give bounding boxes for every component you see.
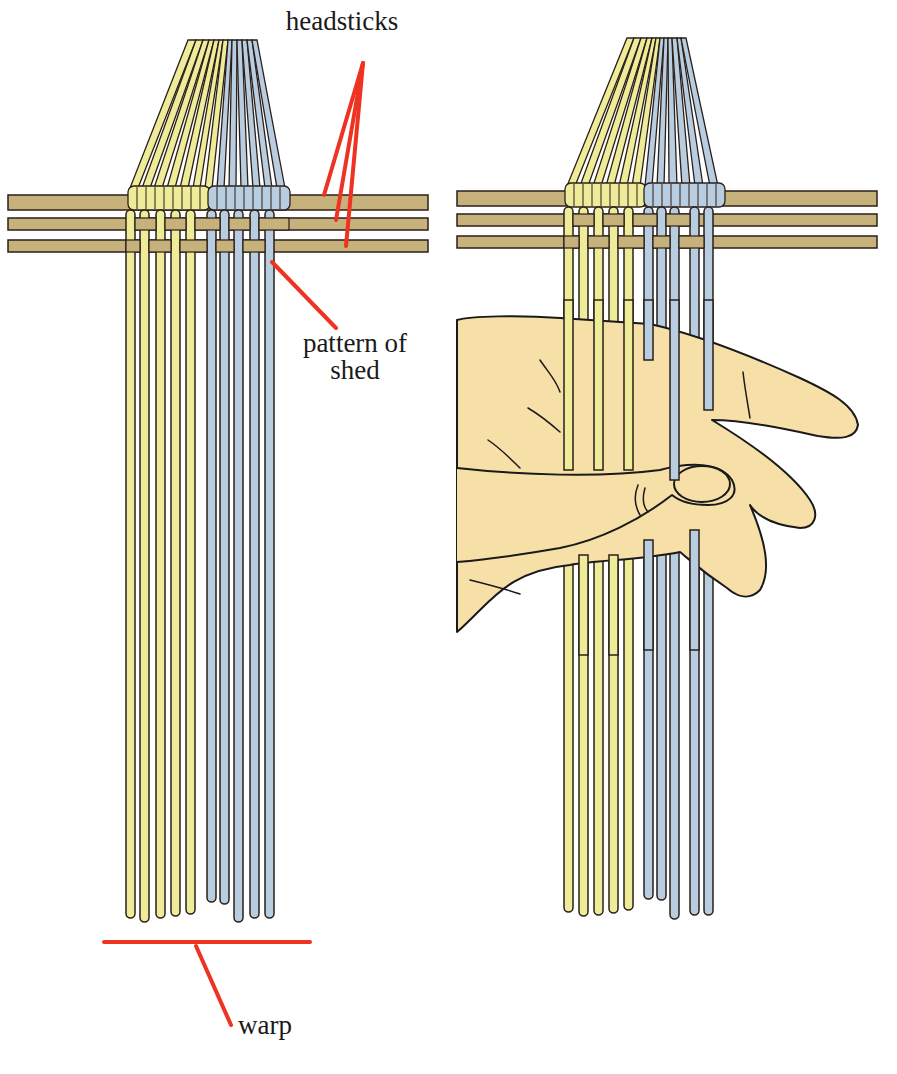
thumbnail [674,466,730,502]
warp-leader [196,946,231,1025]
shed-leader [272,262,336,328]
thread-wrap-left [128,186,290,210]
warp-fan-left [130,40,285,188]
left-panel [8,40,428,1025]
right-panel [457,38,877,919]
label-pattern-of-shed: pattern of shed [290,330,420,384]
label-warp: warp [238,1012,308,1039]
warp-fan-right [567,38,718,186]
warp-threads-left [126,210,274,922]
label-headsticks: headsticks [272,8,412,35]
label-pattern-of-shed-line2: shed [290,357,420,384]
thread-wrap-right [565,183,725,207]
weaving-diagram [0,0,897,1074]
label-pattern-of-shed-line1: pattern of [290,330,420,357]
